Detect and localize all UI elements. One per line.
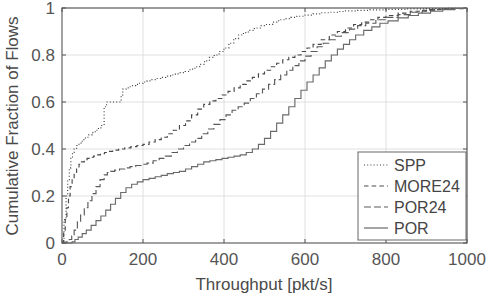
legend-label-por: POR [394, 220, 429, 237]
y-tick-label: 0.8 [31, 46, 55, 65]
x-tick-label: 800 [372, 250, 400, 269]
y-tick-label: 1 [46, 0, 55, 18]
legend: SPPMORE24POR24POR [358, 152, 466, 240]
y-tick-label: 0.4 [31, 140, 55, 159]
x-axis-title: Throughput [pkt/s] [195, 275, 332, 294]
y-axis-title: Cumulative Fraction of Flows [3, 16, 22, 235]
legend-label-more24: MORE24 [394, 178, 460, 195]
legend-label-por24: POR24 [394, 199, 447, 216]
y-tick-label: 0 [46, 234, 55, 253]
cdf-throughput-chart: 02004006008001000 00.20.40.60.81 Through… [0, 0, 492, 296]
y-tick-label: 0.2 [31, 187, 55, 206]
x-tick-label: 600 [291, 250, 319, 269]
x-tick-label: 1000 [448, 250, 486, 269]
x-tick-label: 200 [129, 250, 157, 269]
figure-background [0, 0, 492, 296]
legend-label-spp: SPP [394, 157, 426, 174]
x-tick-label: 0 [57, 250, 66, 269]
y-tick-label: 0.6 [31, 93, 55, 112]
x-tick-label: 400 [210, 250, 238, 269]
chart-page: 02004006008001000 00.20.40.60.81 Through… [0, 0, 492, 296]
